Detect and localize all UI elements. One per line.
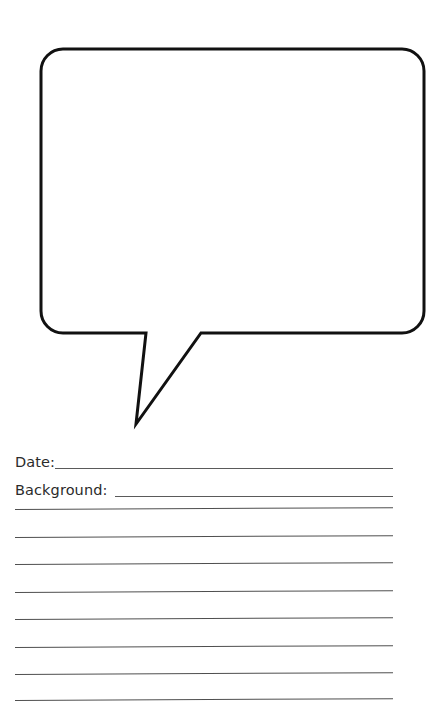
ruled-line[interactable] (15, 698, 393, 701)
speech-bubble-outline (41, 49, 424, 424)
speech-bubble-container (0, 0, 433, 440)
date-field-row: Date: (0, 444, 433, 472)
ruled-line[interactable] (15, 645, 393, 648)
ruled-line[interactable] (15, 672, 393, 675)
background-field-row: Background: (0, 472, 433, 500)
ruled-line[interactable] (15, 562, 393, 565)
date-input-rule[interactable] (55, 468, 393, 469)
ruled-line[interactable] (15, 507, 393, 510)
ruled-line[interactable] (15, 617, 393, 620)
writing-area: Date: Background: (0, 430, 433, 726)
ruled-line[interactable] (15, 535, 393, 538)
background-label: Background: (0, 482, 108, 500)
date-label: Date: (0, 454, 55, 472)
speech-bubble (0, 0, 433, 440)
ruled-line[interactable] (15, 590, 393, 593)
background-input-rule[interactable] (115, 496, 394, 497)
worksheet-page: Date: Background: (0, 0, 433, 726)
